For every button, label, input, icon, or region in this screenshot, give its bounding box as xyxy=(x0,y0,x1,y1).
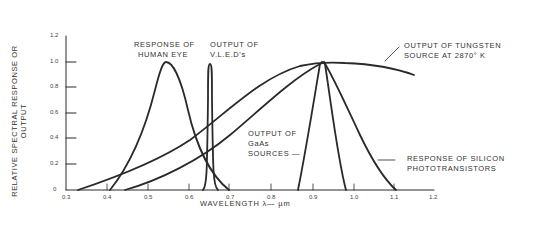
x-tick-label: 1.2 xyxy=(429,194,437,200)
annotation-vled: OUTPUT OF V.L.E.D's xyxy=(210,40,259,60)
x-tick-label: 0.3 xyxy=(62,194,70,200)
series-silicon xyxy=(125,62,396,190)
y-tick-label: 0.2 xyxy=(50,160,58,166)
annotation-line: V.L.E.D's xyxy=(210,50,259,60)
annotation-tungsten: OUTPUT OF TUNGSTEN SOURCE AT 2870° K xyxy=(404,41,501,61)
annotation-line: OUTPUT OF TUNGSTEN xyxy=(404,41,501,51)
annotation-line: OUTPUT OF xyxy=(210,40,259,50)
annotation-gaas: OUTPUT OF GaAs SOURCES — xyxy=(248,129,300,159)
y-tick-label: 0.8 xyxy=(50,83,58,89)
y-tick-label: 1.2 xyxy=(50,32,58,38)
annotation-line: RESPONSE OF xyxy=(134,40,195,50)
annotation-line: SOURCES — xyxy=(248,149,300,159)
x-tick-label: 1.0 xyxy=(350,194,358,200)
y-tick-label: 0.6 xyxy=(50,109,58,115)
annotation-human-eye: RESPONSE OF HUMAN EYE xyxy=(134,40,195,60)
x-axis-label: WAVELENGTH λ— µm xyxy=(200,199,290,208)
series-gaas xyxy=(298,62,346,190)
x-ticks xyxy=(107,184,394,190)
x-tick-label: 0.4 xyxy=(103,194,111,200)
annotation-line: HUMAN EYE xyxy=(134,50,195,60)
annotation-line: PHOTOTRANSISTORS xyxy=(407,164,505,174)
annotation-line: GaAs xyxy=(248,139,300,149)
x-tick-label: 0.9 xyxy=(309,194,317,200)
y-tick-label: 0.4 xyxy=(50,134,58,140)
y-axis-label: RELATIVE SPECTRAL RESPONSE OR OUTPUT xyxy=(10,36,28,206)
annotation-silicon: RESPONSE OF SILICON PHOTOTRANSISTORS xyxy=(407,154,505,174)
x-tick-label: 0.6 xyxy=(185,194,193,200)
tungsten-leader xyxy=(385,47,399,61)
y-tick-label: 1.0 xyxy=(50,58,58,64)
annotation-line: OUTPUT OF xyxy=(248,129,300,139)
series-tungsten xyxy=(78,62,414,190)
x-tick-label: 0.8 xyxy=(267,194,275,200)
y-tick-label: 0 xyxy=(53,186,56,192)
annotation-line: SOURCE AT 2870° K xyxy=(404,51,501,61)
x-tick-label: 0.5 xyxy=(144,194,152,200)
x-tick-label: 1.1 xyxy=(390,194,398,200)
y-ticks xyxy=(66,62,76,164)
annotation-line: RESPONSE OF SILICON xyxy=(407,154,505,164)
x-tick-label: 0.7 xyxy=(226,194,234,200)
